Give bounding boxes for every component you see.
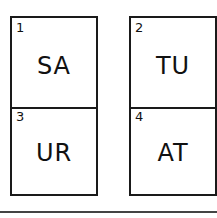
divider-line (0, 211, 217, 213)
tile-number: 1 (16, 20, 24, 35)
tile-letters: AT (131, 139, 215, 167)
letter-tile-3: 3 UR (12, 107, 96, 194)
tile-number: 3 (16, 109, 24, 124)
card-group-right: 2 TU 4 AT (129, 16, 217, 196)
card-group-left: 1 SA 3 UR (10, 16, 98, 196)
letter-tile-2: 2 TU (131, 18, 215, 109)
tile-letters: SA (12, 52, 96, 80)
letter-tile-4: 4 AT (131, 107, 215, 194)
tile-letters: UR (12, 139, 96, 167)
letter-tile-1: 1 SA (12, 18, 96, 109)
tile-letters: TU (131, 52, 215, 80)
tile-number: 2 (135, 20, 143, 35)
tile-number: 4 (135, 109, 143, 124)
